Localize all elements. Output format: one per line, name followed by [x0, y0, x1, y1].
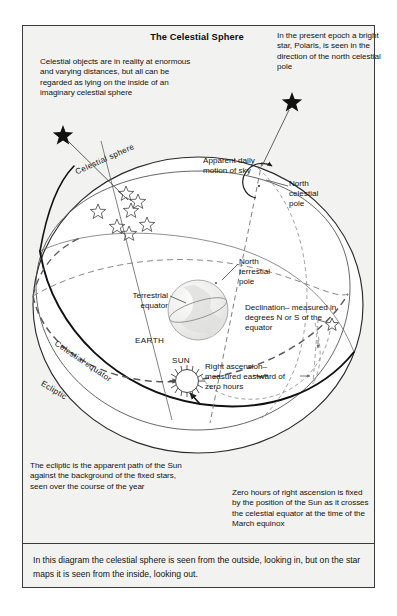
- label-north-celestial-pole: North celestial pole: [289, 179, 331, 210]
- label-declination: Declination– measured in degrees N or S …: [245, 303, 337, 334]
- figure-page: The Celestial Sphere Celestial objects a…: [0, 0, 397, 616]
- label-north-terrestrial-pole: North terrestial pole: [239, 257, 287, 288]
- annotation-celestial-objects: Celestial objects are in reality at enor…: [40, 57, 200, 99]
- label-earth: EARTH: [135, 336, 179, 346]
- annotation-polaris: In the present epoch a bright star, Pola…: [277, 31, 381, 73]
- annotation-ecliptic-note: The ecliptic is the apparent path of the…: [30, 461, 195, 492]
- label-right-ascension: Right ascension– measured eastward of ze…: [205, 362, 297, 393]
- label-terrestrial-equator: Terrestrial equator: [120, 291, 168, 311]
- label-sun: SUN: [172, 356, 202, 366]
- annotation-zero-hours-note: Zero hours of right ascension is fixed b…: [232, 488, 372, 530]
- figure-caption: In this diagram the celestial sphere is …: [33, 554, 365, 581]
- caption-divider: [22, 543, 375, 544]
- label-apparent-daily-motion: Apparent daily motion of sky: [203, 156, 277, 176]
- page-title: The Celestial Sphere: [112, 32, 282, 42]
